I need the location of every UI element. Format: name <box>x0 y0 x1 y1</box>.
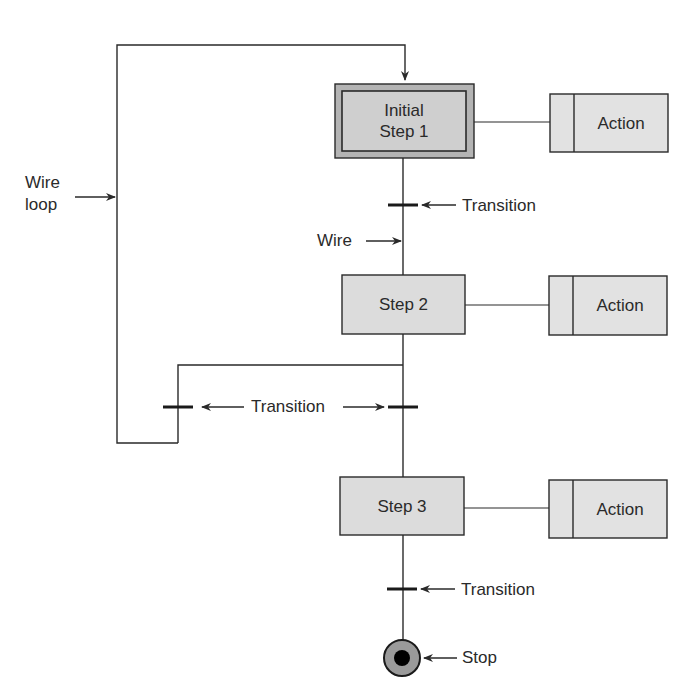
action-2-label: Action <box>573 276 667 335</box>
step-3-label: Step 3 <box>340 477 464 535</box>
initial-step-line2: Step 1 <box>379 121 428 142</box>
initial-step-label: Initial Step 1 <box>342 91 466 151</box>
action-1-label: Action <box>574 94 668 152</box>
stop-label: Stop <box>462 648 497 668</box>
transition-1-label: Transition <box>462 196 536 216</box>
action-3-label: Action <box>573 480 667 538</box>
wire-loop-label: Wire loop <box>25 172 60 216</box>
wire-label: Wire <box>317 231 352 251</box>
transition-branch-label: Transition <box>251 397 325 417</box>
wire-loop-line2: loop <box>25 194 60 216</box>
action-connectors <box>464 122 550 508</box>
wire-loop-line1: Wire <box>25 172 60 194</box>
stop-symbol <box>384 640 420 676</box>
step-2-label: Step 2 <box>342 275 465 334</box>
initial-step-line1: Initial <box>384 100 424 121</box>
transition-3-label: Transition <box>461 580 535 600</box>
